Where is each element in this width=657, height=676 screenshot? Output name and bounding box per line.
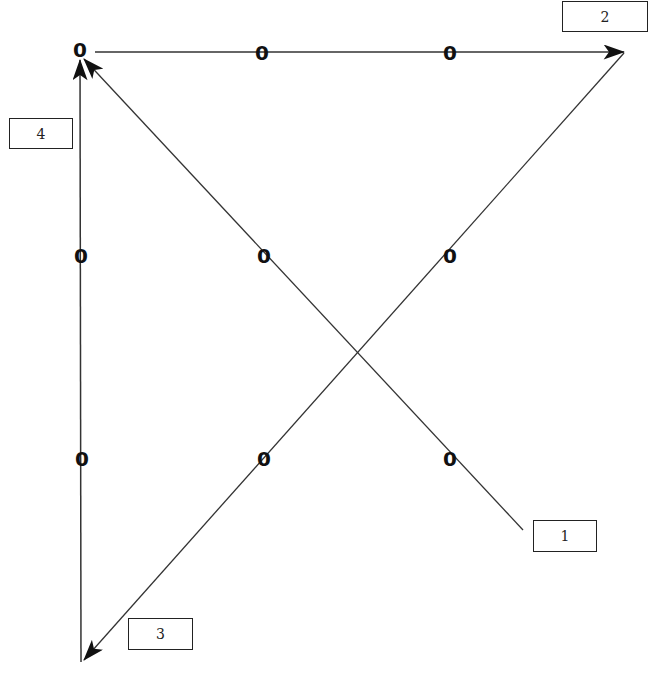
edge-label-top-1: 0: [255, 43, 269, 63]
node-box-3: 3: [128, 618, 193, 650]
node-box-4: 4: [9, 118, 73, 149]
node-label-1: 1: [561, 528, 570, 544]
edge-label-diag2-1: 0: [443, 246, 457, 266]
node-4-value: 0: [73, 40, 87, 60]
edge-label-diag1-1: 0: [257, 246, 271, 266]
node-label-2: 2: [601, 9, 610, 25]
node-box-2: 2: [562, 1, 648, 32]
edge-label-left-1: 0: [74, 246, 88, 266]
edge-label-left-2: 0: [75, 449, 89, 469]
node-box-1: 1: [533, 520, 597, 552]
node-label-4: 4: [37, 126, 46, 142]
node-label-3: 3: [156, 626, 165, 642]
edge-1-to-4: [84, 59, 523, 530]
edge-label-diag2-2: 0: [257, 449, 271, 469]
diagram-edges: [0, 0, 657, 676]
edge-2-to-3: [84, 53, 624, 660]
flow-diagram: 1 2 3 4 0 0 0 0 0 0 0 0 0: [0, 0, 657, 676]
edge-label-top-2: 0: [443, 43, 457, 63]
edge-3-to-4: [80, 60, 81, 662]
edge-label-diag1-2: 0: [443, 449, 457, 469]
